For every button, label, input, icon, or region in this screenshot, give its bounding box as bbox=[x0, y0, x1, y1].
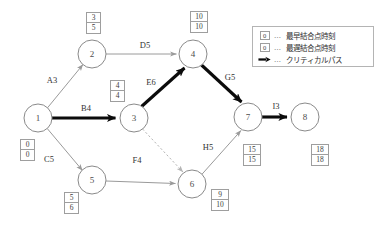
edge-c5 bbox=[47, 129, 82, 171]
node-6-label: 6 bbox=[190, 179, 195, 189]
legend-label-earliest: 最早結合点時刻 bbox=[286, 30, 335, 41]
edge-label-b4: B4 bbox=[81, 103, 92, 113]
timebox-node-4-earliest: 10 bbox=[191, 12, 207, 22]
timebox-node-8-latest: 18 bbox=[312, 155, 328, 165]
node-1-label: 1 bbox=[36, 113, 41, 123]
timebox-node-6-earliest: 9 bbox=[212, 190, 228, 200]
node-7-label: 7 bbox=[246, 112, 251, 122]
legend-arrow-icon-wrap bbox=[258, 56, 271, 63]
node-4-label: 4 bbox=[191, 49, 196, 59]
timebox-node-2: 3 5 bbox=[86, 12, 101, 34]
node-8-label: 8 bbox=[303, 112, 308, 122]
edge-dummy-3-6 bbox=[143, 129, 184, 172]
timebox-node-1: 0 0 bbox=[20, 139, 35, 161]
legend-dots-earliest: … bbox=[274, 32, 282, 40]
timebox-node-3-earliest: 4 bbox=[111, 81, 124, 91]
timebox-node-8-earliest: 18 bbox=[312, 145, 328, 155]
edge-label-h5: H5 bbox=[203, 142, 213, 152]
edge-label-a3: A3 bbox=[47, 75, 57, 85]
timebox-node-7-latest: 15 bbox=[244, 155, 260, 165]
node-3-label: 3 bbox=[132, 113, 137, 123]
timebox-node-3-latest: 4 bbox=[111, 91, 124, 101]
timebox-node-7: 15 15 bbox=[243, 144, 261, 166]
pert-network-diagram: A3 B4 C5 D5 E6 G5 F4 H5 I3 1 2 3 4 5 6 7… bbox=[0, 0, 379, 232]
timebox-node-5-earliest: 5 bbox=[65, 193, 78, 203]
timebox-node-7-earliest: 15 bbox=[244, 145, 260, 155]
edge-label-c5: C5 bbox=[44, 154, 54, 164]
edge-f4 bbox=[106, 181, 176, 184]
legend-earliest-box-icon: 0 bbox=[258, 31, 271, 40]
timebox-node-1-earliest: 0 bbox=[21, 140, 34, 150]
timebox-node-8: 18 18 bbox=[311, 144, 329, 166]
edge-g5-critical bbox=[202, 65, 242, 102]
node-2-label: 2 bbox=[90, 49, 95, 59]
edge-label-f4: F4 bbox=[133, 155, 143, 165]
legend-row-critical-path: … クリティカルパス bbox=[258, 54, 369, 65]
timebox-node-1-latest: 0 bbox=[21, 150, 34, 160]
edge-e6-critical bbox=[142, 68, 185, 107]
timebox-node-5: 5 6 bbox=[64, 192, 79, 214]
timebox-node-6: 9 10 bbox=[211, 189, 229, 211]
timebox-node-6-latest: 10 bbox=[212, 200, 228, 210]
legend-label-critical-path: クリティカルパス bbox=[286, 54, 342, 65]
edge-label-e6: E6 bbox=[146, 77, 155, 87]
legend-label-latest: 最遅結合点時刻 bbox=[286, 42, 335, 53]
edge-label-g5: G5 bbox=[225, 72, 235, 82]
legend-panel: 0 … 最早結合点時刻 0 … 最遅結合点時刻 … クリティカルパス bbox=[252, 26, 374, 67]
edge-label-i3: I3 bbox=[272, 101, 279, 111]
legend-latest-box-icon: 0 bbox=[258, 43, 271, 52]
legend-dots-critical-path: … bbox=[274, 56, 282, 64]
legend-row-earliest: 0 … 最早結合点時刻 bbox=[258, 30, 369, 41]
timebox-node-4-latest: 10 bbox=[191, 22, 207, 32]
legend-earliest-box-value: 0 bbox=[260, 31, 270, 40]
timebox-node-3: 4 4 bbox=[110, 80, 125, 102]
timebox-node-4: 10 10 bbox=[190, 11, 208, 33]
timebox-node-2-latest: 5 bbox=[87, 23, 100, 33]
timebox-node-2-earliest: 3 bbox=[87, 13, 100, 23]
legend-row-latest: 0 … 最遅結合点時刻 bbox=[258, 42, 369, 53]
legend-latest-box-value: 0 bbox=[260, 43, 270, 52]
legend-dots-latest: … bbox=[274, 44, 282, 52]
edge-h5 bbox=[202, 131, 241, 175]
node-5-label: 5 bbox=[90, 175, 95, 185]
edge-a3 bbox=[48, 65, 84, 108]
bold-arrow-icon bbox=[258, 56, 271, 63]
edge-label-d5: D5 bbox=[140, 40, 150, 50]
timebox-node-5-latest: 6 bbox=[65, 203, 78, 213]
